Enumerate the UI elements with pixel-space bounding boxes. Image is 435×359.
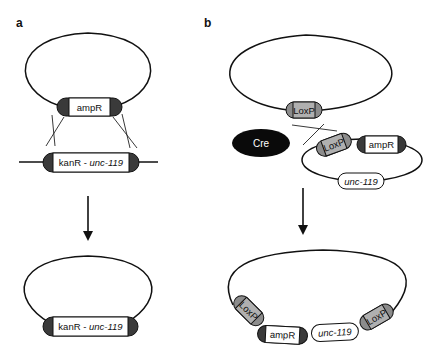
unc119-gene: unc-119 bbox=[338, 173, 384, 189]
panel-b-result-plasmid: LoxP ampR unc-119 LoxP bbox=[228, 250, 406, 345]
kanr-label: kanR - bbox=[58, 321, 89, 332]
plasmid-backbone bbox=[228, 250, 406, 312]
unc119-label: unc-119 bbox=[344, 176, 378, 187]
ampr-cassette: ampR bbox=[57, 98, 122, 116]
panel-a: a ampR kanR - unc-119 bbox=[16, 16, 158, 336]
panel-b-top-plasmid: LoxP bbox=[230, 35, 392, 118]
plasmid-backbone bbox=[24, 256, 152, 323]
panel-a-result-plasmid: kanR - unc-119 bbox=[24, 256, 152, 336]
loxp-site: LoxP bbox=[314, 131, 353, 158]
cre-enzyme: Cre bbox=[232, 129, 290, 157]
plasmid-backbone bbox=[25, 33, 150, 106]
kanr-unc119-cassette: kanR - unc-119 bbox=[43, 317, 138, 336]
ampr-cassette: ampR bbox=[257, 325, 308, 345]
loxp-site-right: LoxP bbox=[357, 301, 396, 333]
loxp-label: LoxP bbox=[293, 105, 315, 116]
unc119-label: unc-119 bbox=[89, 157, 123, 168]
unc119-label: unc-119 bbox=[318, 326, 353, 339]
svg-text:kanR - unc-119: kanR - unc-119 bbox=[58, 321, 123, 332]
kanr-unc119-cassette: kanR - unc-119 bbox=[43, 153, 139, 172]
unc119-gene: unc-119 bbox=[311, 323, 359, 342]
svg-text:kanR - unc-119: kanR - unc-119 bbox=[59, 157, 124, 168]
ampr-label: ampR bbox=[77, 102, 102, 113]
unc119-label: unc-119 bbox=[89, 321, 123, 332]
loxp-site: LoxP bbox=[286, 102, 322, 118]
ampr-label: ampR bbox=[369, 139, 394, 150]
panel-a-label: a bbox=[16, 16, 23, 30]
panel-b-donor-plasmid: LoxP ampR unc-119 bbox=[302, 131, 422, 189]
crossover-lines bbox=[46, 114, 137, 148]
ampr-label: ampR bbox=[270, 329, 296, 341]
kanr-label: kanR - bbox=[59, 157, 90, 168]
panel-a-linear-dna: kanR - unc-119 bbox=[19, 153, 158, 172]
cre-label: Cre bbox=[253, 138, 270, 149]
ampr-cassette: ampR bbox=[357, 136, 406, 153]
recombination-diagram: a ampR kanR - unc-119 bbox=[0, 0, 435, 359]
panel-a-top-plasmid: ampR bbox=[25, 33, 150, 116]
panel-b: b LoxP Cre LoxP bbox=[204, 16, 422, 345]
panel-b-label: b bbox=[204, 16, 211, 30]
loxp-site-left: LoxP bbox=[230, 292, 267, 329]
plasmid-backbone bbox=[230, 35, 392, 110]
